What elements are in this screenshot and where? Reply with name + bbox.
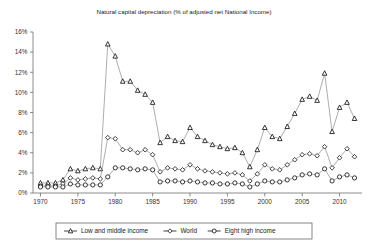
data-point-circle bbox=[76, 183, 80, 187]
x-tick-label: 2000 bbox=[258, 198, 273, 205]
data-point-diamond bbox=[143, 147, 148, 152]
data-point-circle bbox=[38, 185, 42, 189]
data-point-triangle bbox=[128, 79, 133, 83]
data-point-circle bbox=[225, 182, 229, 186]
data-point-triangle bbox=[307, 94, 312, 98]
data-point-circle bbox=[212, 229, 216, 233]
data-point-circle bbox=[121, 166, 125, 170]
y-tick-label: 8% bbox=[18, 109, 28, 116]
data-point-diamond bbox=[270, 167, 275, 172]
data-point-triangle bbox=[113, 54, 118, 58]
y-tick-label: 10% bbox=[15, 89, 28, 96]
data-point-triangle bbox=[91, 165, 96, 169]
data-point-circle bbox=[308, 172, 312, 176]
y-tick-label: 14% bbox=[15, 48, 28, 55]
data-point-circle bbox=[128, 167, 132, 171]
data-point-circle bbox=[113, 166, 117, 170]
data-point-triangle bbox=[120, 79, 125, 83]
data-point-circle bbox=[278, 180, 282, 184]
data-point-diamond bbox=[233, 171, 238, 176]
legend-item-label: World bbox=[180, 227, 197, 234]
data-point-diamond bbox=[158, 170, 163, 175]
data-point-circle bbox=[188, 179, 192, 183]
data-point-diamond bbox=[292, 157, 297, 162]
data-point-triangle bbox=[277, 136, 282, 140]
data-point-circle bbox=[143, 167, 147, 171]
data-point-triangle bbox=[337, 105, 342, 109]
data-point-circle bbox=[218, 182, 222, 186]
data-point-diamond bbox=[277, 168, 282, 173]
data-point-diamond bbox=[285, 163, 290, 168]
data-point-diamond bbox=[98, 177, 103, 182]
data-point-triangle bbox=[285, 124, 290, 128]
data-point-diamond bbox=[83, 177, 88, 182]
data-point-circle bbox=[233, 181, 237, 185]
legend-item-label: Low and middle income bbox=[81, 227, 149, 234]
data-point-circle bbox=[248, 185, 252, 189]
data-point-diamond bbox=[165, 166, 170, 171]
x-tick-label: 1985 bbox=[146, 198, 161, 205]
data-point-circle bbox=[293, 176, 297, 180]
data-point-triangle bbox=[83, 166, 88, 170]
data-point-triangle bbox=[300, 97, 305, 101]
data-point-circle bbox=[337, 175, 341, 179]
data-point-diamond bbox=[300, 152, 305, 157]
chart-legend: Low and middle incomeWorldEight high inc… bbox=[56, 223, 312, 239]
data-point-diamond bbox=[180, 168, 185, 173]
data-point-triangle bbox=[233, 145, 238, 149]
data-point-triangle bbox=[225, 146, 230, 150]
data-point-triangle bbox=[315, 98, 320, 102]
data-point-diamond bbox=[173, 167, 178, 172]
chart-figure: Natural capital depreciation (% of adjus… bbox=[0, 0, 368, 248]
data-point-triangle bbox=[352, 116, 357, 120]
data-point-diamond bbox=[150, 152, 155, 157]
data-point-triangle bbox=[248, 164, 253, 168]
data-point-circle bbox=[300, 173, 304, 177]
data-point-diamond bbox=[105, 135, 110, 140]
data-point-triangle bbox=[180, 139, 185, 143]
data-point-circle bbox=[240, 182, 244, 186]
data-point-circle bbox=[285, 178, 289, 182]
data-point-circle bbox=[315, 173, 319, 177]
data-point-triangle bbox=[68, 166, 73, 170]
data-point-diamond bbox=[210, 170, 215, 175]
data-point-circle bbox=[352, 176, 356, 180]
chart-title: Natural capital depreciation (% of adjus… bbox=[96, 8, 271, 15]
data-point-diamond bbox=[128, 147, 133, 152]
data-point-circle bbox=[195, 180, 199, 184]
y-tick-label: 0% bbox=[18, 189, 28, 196]
data-point-circle bbox=[180, 180, 184, 184]
data-point-diamond bbox=[91, 176, 96, 181]
data-point-diamond bbox=[195, 167, 200, 172]
data-point-circle bbox=[345, 173, 349, 177]
data-point-circle bbox=[98, 183, 102, 187]
data-point-diamond bbox=[203, 169, 208, 174]
plot-area bbox=[38, 42, 357, 189]
data-point-triangle bbox=[210, 142, 215, 146]
data-point-circle bbox=[270, 180, 274, 184]
x-tick-label: 1975 bbox=[71, 198, 86, 205]
data-point-triangle bbox=[292, 111, 297, 115]
x-tick-label: 1995 bbox=[220, 198, 235, 205]
data-point-triangle bbox=[262, 125, 267, 129]
series-line bbox=[40, 44, 354, 183]
data-point-diamond bbox=[76, 178, 81, 183]
x-tick-label: 2005 bbox=[295, 198, 310, 205]
y-tick-label: 2% bbox=[18, 169, 28, 176]
y-tick-label: 16% bbox=[15, 28, 28, 35]
series-low-and-middle-income bbox=[38, 42, 357, 185]
data-point-diamond bbox=[225, 172, 230, 177]
data-point-circle bbox=[151, 168, 155, 172]
data-point-diamond bbox=[113, 136, 118, 141]
data-point-triangle bbox=[330, 129, 335, 133]
data-point-circle bbox=[203, 181, 207, 185]
data-point-triangle bbox=[255, 147, 260, 151]
data-point-circle bbox=[165, 179, 169, 183]
data-point-circle bbox=[330, 179, 334, 183]
x-axis: 197019751980198519901995200020052010 bbox=[33, 193, 362, 205]
data-point-circle bbox=[173, 179, 177, 183]
data-point-diamond bbox=[135, 150, 140, 155]
x-tick-label: 2010 bbox=[332, 198, 347, 205]
data-point-circle bbox=[158, 180, 162, 184]
data-point-circle bbox=[61, 185, 65, 189]
